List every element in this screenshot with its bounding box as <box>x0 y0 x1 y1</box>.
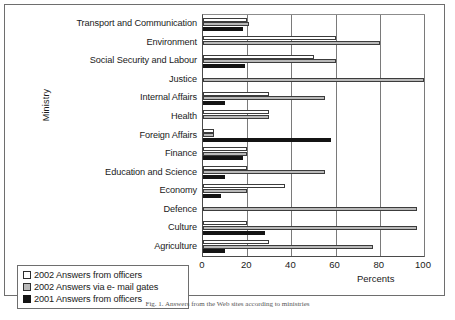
bar <box>203 27 243 31</box>
bar <box>203 166 247 170</box>
bar <box>203 129 214 133</box>
y-axis-label: Culture <box>29 222 197 232</box>
bar <box>203 110 269 114</box>
bar <box>203 170 325 174</box>
bar <box>203 101 225 105</box>
bar-group <box>203 182 424 201</box>
bar <box>203 115 269 119</box>
bar <box>203 249 225 253</box>
bar-group <box>203 219 424 238</box>
bar-group <box>203 163 424 182</box>
bar <box>203 36 336 40</box>
y-axis-label: Economy <box>29 185 197 195</box>
y-axis-label: Social Security and Labour <box>29 55 197 65</box>
bar-group <box>203 126 424 145</box>
bar <box>203 184 285 188</box>
bar <box>203 245 373 249</box>
bar-group <box>203 89 424 108</box>
bar <box>203 147 247 151</box>
plot-area <box>202 14 425 257</box>
bar-group <box>203 237 424 256</box>
bar <box>203 231 265 235</box>
legend-item: 2002 Answers from officers <box>23 269 184 281</box>
bar <box>203 133 214 137</box>
y-axis-label: Transport and Communication <box>29 18 197 28</box>
x-tick-label: 0 <box>199 259 204 270</box>
y-axis-label: Health <box>29 111 197 121</box>
bar <box>203 240 269 244</box>
legend-swatch-icon <box>23 271 31 279</box>
bar <box>203 64 245 68</box>
bar-group <box>203 15 424 34</box>
bar <box>203 138 331 142</box>
x-tick-label: 80 <box>374 259 385 270</box>
legend-item: 2002 Answers via e- mail gates <box>23 281 184 293</box>
bar <box>203 207 417 211</box>
figure-caption: Fig. 1. Answers from the Web sites accor… <box>0 300 455 308</box>
bar <box>203 18 247 22</box>
figure-container: Ministry Transport and CommunicationEnvi… <box>0 0 455 320</box>
bar <box>203 92 269 96</box>
x-axis-title: Percents <box>357 273 395 284</box>
bar <box>203 59 336 63</box>
y-axis-label: Environment <box>29 37 197 47</box>
bar-group <box>203 34 424 53</box>
y-axis-label: Finance <box>29 148 197 158</box>
bar <box>203 194 221 198</box>
bar <box>203 152 247 156</box>
y-axis-category-labels: Transport and CommunicationEnvironmentSo… <box>29 14 197 257</box>
x-tick-label: 20 <box>241 259 252 270</box>
y-axis-label: Foreign Affairs <box>29 130 197 140</box>
bar-group <box>203 145 424 164</box>
bar <box>203 175 225 179</box>
bar-group <box>203 108 424 127</box>
gridline <box>424 15 425 256</box>
y-axis-label: Justice <box>29 74 197 84</box>
bar <box>203 55 314 59</box>
legend-label: 2002 Answers from officers <box>34 270 142 280</box>
bar <box>203 96 325 100</box>
bar <box>203 156 243 160</box>
y-axis-label: Agriculture <box>29 241 197 251</box>
bar <box>203 22 249 26</box>
bar <box>203 226 417 230</box>
x-tick-label: 60 <box>329 259 340 270</box>
x-axis-tick-labels: 020406080100 <box>202 259 425 273</box>
y-axis-label: Internal Affairs <box>29 92 197 102</box>
legend-label: 2002 Answers via e- mail gates <box>34 282 158 292</box>
bar-group <box>203 52 424 71</box>
y-axis-label: Education and Science <box>29 167 197 177</box>
legend-swatch-icon <box>23 283 31 291</box>
x-tick-label: 100 <box>415 259 431 270</box>
bar-group <box>203 71 424 90</box>
x-tick-label: 40 <box>285 259 296 270</box>
bar <box>203 78 424 82</box>
bar <box>203 41 380 45</box>
y-axis-label: Defence <box>29 204 197 214</box>
bar <box>203 189 247 193</box>
bar-group <box>203 200 424 219</box>
chart-frame: Ministry Transport and CommunicationEnvi… <box>4 4 445 296</box>
bar <box>203 221 247 225</box>
